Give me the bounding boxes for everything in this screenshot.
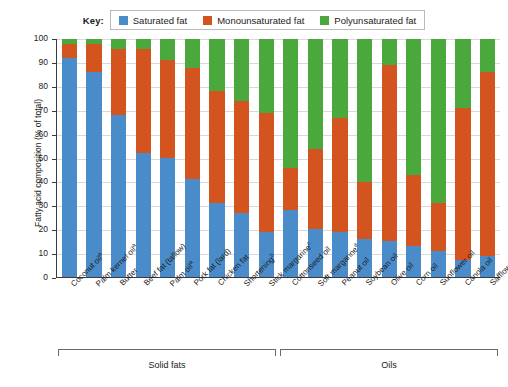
y-tick-label-80: 80 xyxy=(22,82,48,91)
bar-segment-polyunsaturated-fat xyxy=(455,39,470,108)
bar-segment-polyunsaturated-fat xyxy=(308,39,323,148)
bar-14[interactable] xyxy=(406,39,421,277)
legend-item-label: Saturated fat xyxy=(133,15,187,26)
bar-segment-monounsaturated-fat xyxy=(185,68,200,180)
bar-slot xyxy=(106,39,131,277)
bar-segment-polyunsaturated-fat xyxy=(431,39,446,203)
bar-8[interactable] xyxy=(259,39,274,277)
bar-segment-monounsaturated-fat xyxy=(308,149,323,230)
legend-item-0: Saturated fat xyxy=(119,15,187,26)
bar-10[interactable] xyxy=(308,39,323,277)
x-tick-label-17: Safflower oil xyxy=(488,281,494,287)
y-tick-mark-70 xyxy=(52,111,56,112)
legend-swatch-icon xyxy=(119,16,128,25)
bar-slot xyxy=(131,39,156,277)
bar-slot xyxy=(451,39,476,277)
bar-segment-monounsaturated-fat xyxy=(62,44,77,58)
x-tick-label-6: Chicken fat xyxy=(216,281,222,287)
y-tick-label-50: 50 xyxy=(22,154,48,163)
bar-12[interactable] xyxy=(357,39,372,277)
group-label-solid-fats: Solid fats xyxy=(58,360,276,370)
bar-segment-polyunsaturated-fat xyxy=(480,39,495,72)
bar-slot xyxy=(426,39,451,277)
legend-box: Saturated fatMonounsaturated fatPolyunsa… xyxy=(110,10,425,30)
y-tick-label-10: 10 xyxy=(22,249,48,258)
y-tick-mark-80 xyxy=(52,87,56,88)
bar-segment-monounsaturated-fat xyxy=(111,49,126,116)
bar-segment-monounsaturated-fat xyxy=(160,60,175,158)
x-tick-label-13: Olive oil xyxy=(389,281,395,287)
x-tick-label-7: Shorteningb xyxy=(241,281,249,289)
y-tick-label-60: 60 xyxy=(22,130,48,139)
y-tick-mark-20 xyxy=(52,230,56,231)
bar-slot xyxy=(180,39,205,277)
bar-segment-monounsaturated-fat xyxy=(357,182,372,239)
legend-item-label: Monounsaturated fat xyxy=(217,15,304,26)
legend-title: Key: xyxy=(83,15,104,26)
plot-area xyxy=(56,39,500,278)
bar-segment-monounsaturated-fat xyxy=(86,44,101,73)
group-label-oils: Oils xyxy=(280,360,498,370)
bar-4[interactable] xyxy=(160,39,175,277)
bar-slot xyxy=(328,39,353,277)
bar-segment-monounsaturated-fat xyxy=(431,203,446,251)
bar-16[interactable] xyxy=(455,39,470,277)
x-tick-label-11: Peanut oil xyxy=(340,281,346,287)
bar-7[interactable] xyxy=(234,39,249,277)
bar-6[interactable] xyxy=(209,39,224,277)
y-tick-mark-60 xyxy=(52,135,56,136)
y-tick-mark-10 xyxy=(52,254,56,255)
bar-15[interactable] xyxy=(431,39,446,277)
bar-segment-monounsaturated-fat xyxy=(209,91,224,203)
bar-segment-polyunsaturated-fat xyxy=(111,39,126,49)
x-tick-label-1: Palm kernel oila xyxy=(93,281,101,289)
x-tick-label-2: Butter xyxy=(118,281,124,287)
bar-segment-monounsaturated-fat xyxy=(136,49,151,154)
group-bracket-0 xyxy=(58,349,276,356)
bar-2[interactable] xyxy=(111,39,126,277)
bar-3[interactable] xyxy=(136,39,151,277)
bar-slot xyxy=(475,39,500,277)
group-bracket-1 xyxy=(280,349,498,356)
x-tick-label-0: Coconut oila xyxy=(68,281,76,289)
x-tick-label-16: Canola oil xyxy=(463,281,469,287)
legend-swatch-icon xyxy=(320,16,329,25)
bar-slot xyxy=(377,39,402,277)
bar-segment-polyunsaturated-fat xyxy=(382,39,397,65)
bar-0[interactable] xyxy=(62,39,77,277)
y-tick-mark-40 xyxy=(52,182,56,183)
bar-slot xyxy=(402,39,427,277)
y-tick-label-20: 20 xyxy=(22,225,48,234)
bar-segment-monounsaturated-fat xyxy=(455,108,470,260)
y-tick-label-40: 40 xyxy=(22,177,48,186)
bar-segment-monounsaturated-fat xyxy=(382,65,397,241)
bar-slot xyxy=(57,39,82,277)
bar-segment-polyunsaturated-fat xyxy=(160,39,175,60)
bar-9[interactable] xyxy=(283,39,298,277)
bar-segment-polyunsaturated-fat xyxy=(357,39,372,182)
bar-segment-polyunsaturated-fat xyxy=(332,39,347,118)
bar-segment-monounsaturated-fat xyxy=(332,118,347,232)
bars-container xyxy=(57,39,500,277)
x-tick-label-14: Corn oil xyxy=(414,281,420,287)
x-tick-label-4: Palm oila xyxy=(167,281,175,289)
bar-13[interactable] xyxy=(382,39,397,277)
bar-segment-polyunsaturated-fat xyxy=(209,39,224,91)
bar-17[interactable] xyxy=(480,39,495,277)
bar-11[interactable] xyxy=(332,39,347,277)
bar-5[interactable] xyxy=(185,39,200,277)
bar-segment-polyunsaturated-fat xyxy=(185,39,200,68)
y-tick-label-100: 100 xyxy=(22,34,48,43)
bar-slot xyxy=(278,39,303,277)
bar-1[interactable] xyxy=(86,39,101,277)
bar-slot xyxy=(155,39,180,277)
y-tick-label-70: 70 xyxy=(22,106,48,115)
bar-segment-polyunsaturated-fat xyxy=(259,39,274,113)
y-tick-mark-100 xyxy=(52,39,56,40)
x-axis-labels: Coconut oilaPalm kernel oilaButterBeef f… xyxy=(56,279,500,347)
bar-slot xyxy=(352,39,377,277)
x-tick-label-12: Soybean oil xyxy=(364,281,370,287)
bar-slot xyxy=(229,39,254,277)
y-tick-mark-90 xyxy=(52,63,56,64)
y-tick-mark-50 xyxy=(52,159,56,160)
